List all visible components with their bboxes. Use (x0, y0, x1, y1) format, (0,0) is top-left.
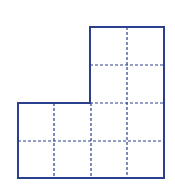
l-shape-diagram (0, 0, 175, 194)
